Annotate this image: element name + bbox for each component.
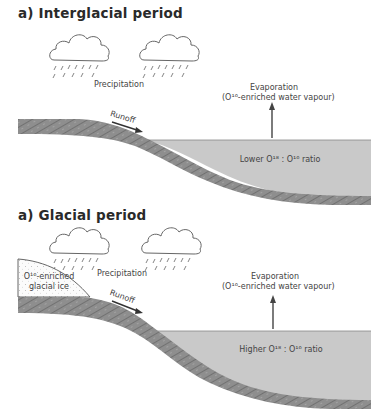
interglacial-scene [0,0,384,205]
cloud-rain-icon [50,228,109,271]
glacial-panel: a) Glacial period Precipitation Evaporat… [0,205,384,417]
ocean-ratio-label: Lower O¹⁸ : O¹⁶ ratio [232,154,328,165]
precipitation-label: Precipitation [97,268,147,279]
glacial-scene [0,205,384,417]
interglacial-panel: a) Interglacial period Precipitation Eva… [0,0,384,205]
cloud-rain-icon [140,35,199,78]
evaporation-sublabel: (O¹⁶-enriched water vapour) [222,92,326,103]
evaporation-sublabel: (O¹⁶-enriched water vapour) [222,281,326,292]
panel-title: a) Glacial period [18,207,146,223]
cloud-rain-icon [50,35,109,78]
panel-title: a) Interglacial period [18,5,183,21]
ocean-ratio-label: Higher O¹⁸ : O¹⁶ ratio [232,344,330,355]
precipitation-label: Precipitation [94,79,144,90]
ice-label-line2: glacial ice [20,281,78,292]
cloud-rain-icon [142,228,201,271]
